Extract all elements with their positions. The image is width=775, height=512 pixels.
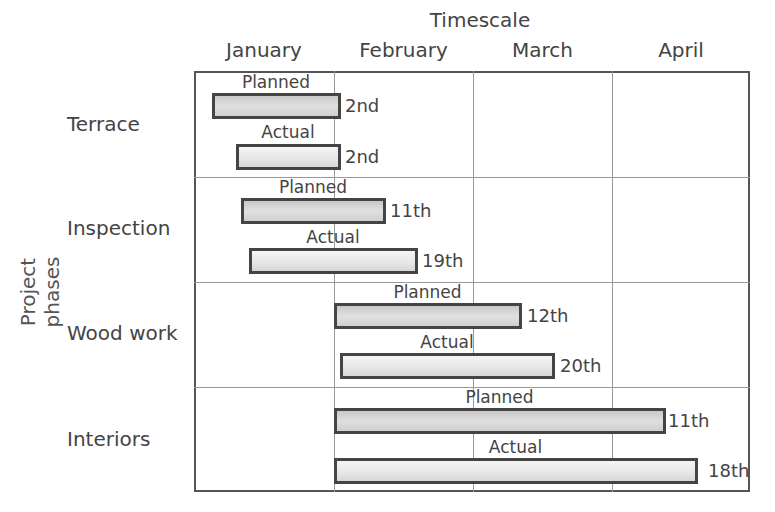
planned-label: Planned [334, 282, 521, 302]
inspection-planned-bar [241, 198, 386, 224]
y-axis-label: Project phases [16, 222, 64, 362]
actual-label: Actual [249, 227, 417, 247]
month-february: February [334, 38, 473, 62]
end-date-label: 11th [390, 200, 431, 221]
planned-label: Planned [212, 72, 340, 92]
interiors-actual-bar [334, 458, 698, 484]
end-date-label: 18th [708, 460, 749, 481]
actual-label: Actual [236, 122, 340, 142]
terrace-actual-bar [236, 144, 341, 170]
actual-label: Actual [334, 437, 697, 457]
end-date-label: 20th [560, 355, 601, 376]
woodwork-actual-bar [340, 353, 555, 379]
phase-interiors: Interiors [67, 427, 150, 451]
end-date-label: 2nd [345, 146, 379, 167]
phase-wood-work: Wood work [67, 321, 178, 345]
end-date-label: 19th [422, 250, 463, 271]
terrace-planned-bar [212, 93, 341, 119]
end-date-label: 2nd [345, 95, 379, 116]
month-april: April [612, 38, 750, 62]
end-date-label: 11th [668, 410, 709, 431]
actual-label: Actual [340, 332, 554, 352]
chart-title: Timescale [190, 8, 770, 32]
month-march: March [473, 38, 612, 62]
phase-inspection: Inspection [67, 216, 170, 240]
phase-terrace: Terrace [67, 112, 140, 136]
month-january: January [204, 38, 324, 62]
planned-label: Planned [241, 177, 385, 197]
interiors-planned-bar [334, 408, 666, 434]
woodwork-planned-bar [334, 303, 522, 329]
planned-label: Planned [334, 387, 665, 407]
end-date-label: 12th [527, 305, 568, 326]
inspection-actual-bar [249, 248, 418, 274]
